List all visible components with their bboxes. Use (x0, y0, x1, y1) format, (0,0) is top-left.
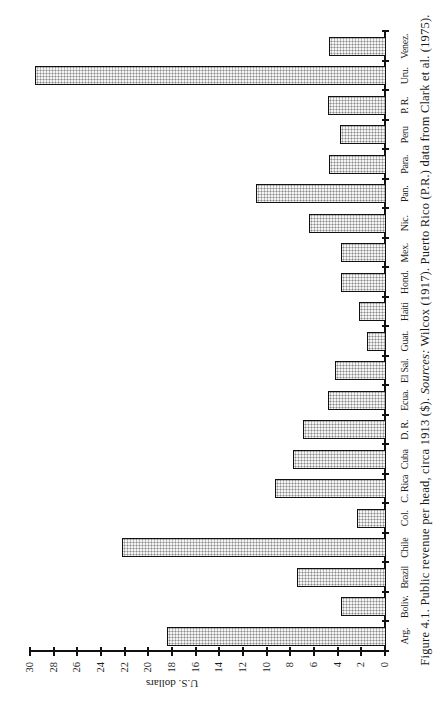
x-tick (382, 326, 389, 328)
x-tick (382, 532, 389, 534)
category-label: Col. (399, 503, 411, 533)
sources-text: Wilcox (1917). Puerto Rico (P.R.) data f… (418, 14, 432, 346)
x-tick (382, 650, 389, 652)
y-tick-label: 22 (120, 662, 130, 686)
y-tick (53, 647, 55, 656)
bar-p-r (328, 96, 385, 115)
bar-d-r (303, 420, 385, 439)
y-tick (76, 647, 78, 656)
x-tick (382, 385, 389, 387)
category-label: Brazil (399, 562, 411, 592)
bar-hond (341, 273, 385, 292)
y-tick (337, 647, 339, 656)
x-tick (382, 60, 389, 62)
bar-venez (329, 37, 385, 56)
x-tick (382, 178, 389, 180)
y-tick-label: 30 (25, 662, 35, 686)
x-tick (382, 149, 389, 151)
category-label: Venez. (399, 31, 411, 61)
y-tick-label: 24 (96, 662, 106, 686)
y-tick (266, 647, 268, 656)
category-label: Peru (399, 120, 411, 150)
y-tick (218, 647, 220, 656)
bar-guat (367, 332, 385, 351)
x-tick (382, 473, 389, 475)
bar-cuba (293, 450, 385, 469)
y-tick-label: 26 (72, 662, 82, 686)
category-label: Uru. (399, 61, 411, 91)
y-tick-label: 12 (238, 662, 248, 686)
bar-el-sal (335, 361, 385, 380)
bar-brazil (297, 568, 385, 587)
x-tick (382, 355, 389, 357)
bar-peru (340, 125, 385, 144)
category-label: Guat. (399, 326, 411, 356)
y-tick-label: 28 (49, 662, 59, 686)
category-label: Ecua. (399, 385, 411, 415)
y-tick (242, 647, 244, 656)
bar-haiti (359, 302, 385, 321)
x-tick (382, 119, 389, 121)
y-tick (360, 647, 362, 656)
y-tick (124, 647, 126, 656)
y-tick-label: 10 (262, 662, 272, 686)
y-tick (100, 647, 102, 656)
y-tick-label: 0 (380, 662, 390, 686)
bar-ecua (328, 391, 385, 410)
y-tick-label: 8 (285, 662, 295, 686)
x-tick (382, 31, 389, 33)
bar-col (357, 509, 385, 528)
category-label: D. R. (399, 415, 411, 445)
category-label: C. Rica (399, 474, 411, 504)
y-tick (289, 647, 291, 656)
y-tick (29, 647, 31, 656)
x-tick (382, 562, 389, 564)
bar-para (329, 155, 385, 174)
category-label: Haiti (399, 297, 411, 327)
y-tick (313, 647, 315, 656)
category-label: Boliv. (399, 592, 411, 622)
bar-chile (122, 538, 385, 557)
y-axis-label: U.S. dollars (137, 678, 207, 690)
x-tick (382, 503, 389, 505)
category-label: Nic. (399, 208, 411, 238)
bar-arg (167, 627, 385, 646)
x-tick (382, 591, 389, 593)
bar-mex (341, 243, 385, 262)
category-label: Arg. (399, 621, 411, 651)
x-tick (382, 90, 389, 92)
category-label: Para. (399, 149, 411, 179)
figure-title: Public revenue per head, circa 1913 ($). (418, 398, 432, 606)
x-tick (382, 414, 389, 416)
bar-boliv (341, 597, 385, 616)
y-tick-label: 14 (214, 662, 224, 686)
category-label: Mex. (399, 238, 411, 268)
y-tick-label: 4 (333, 662, 343, 686)
rotated-figure-page: 024681012141618202224262830Arg.Boliv.Bra… (0, 0, 443, 724)
category-label: Chile (399, 533, 411, 563)
y-tick (195, 647, 197, 656)
x-tick (382, 296, 389, 298)
y-axis-line (29, 650, 386, 652)
bar-c-rica (275, 479, 385, 498)
bar-chart: 024681012141618202224262830Arg.Boliv.Bra… (0, 0, 443, 724)
figure-number: Figure 4.1. (418, 609, 432, 666)
y-tick (171, 647, 173, 656)
x-tick (382, 444, 389, 446)
y-tick-label: 6 (309, 662, 319, 686)
category-label: El Sal. (399, 356, 411, 386)
x-tick (382, 267, 389, 269)
category-label: P. R. (399, 90, 411, 120)
x-tick (382, 621, 389, 623)
figure-caption: Figure 4.1. Public revenue per head, cir… (418, 6, 433, 674)
category-label: Hond. (399, 267, 411, 297)
bar-uru (35, 66, 385, 85)
sources-label: Sources: (418, 349, 432, 394)
y-tick-label: 2 (356, 662, 366, 686)
x-tick (382, 237, 389, 239)
bar-pan (256, 184, 385, 203)
bar-nic (309, 214, 385, 233)
y-tick (147, 647, 149, 656)
category-label: Cuba (399, 444, 411, 474)
category-label: Pan. (399, 179, 411, 209)
